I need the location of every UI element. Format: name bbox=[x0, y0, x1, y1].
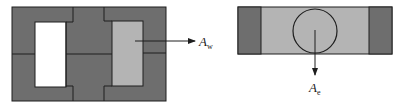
winding bbox=[112, 21, 143, 86]
core-window bbox=[35, 22, 66, 87]
right-core-view: Ae bbox=[238, 7, 392, 97]
core-diagram: Aw Ae bbox=[0, 0, 403, 107]
aw-label: Aw bbox=[198, 34, 213, 51]
ae-label: Ae bbox=[308, 80, 321, 97]
side-end-right bbox=[369, 7, 392, 54]
side-end-left bbox=[238, 7, 261, 54]
diagram-canvas: Aw Ae bbox=[0, 0, 403, 107]
left-core-view: Aw bbox=[12, 7, 213, 101]
